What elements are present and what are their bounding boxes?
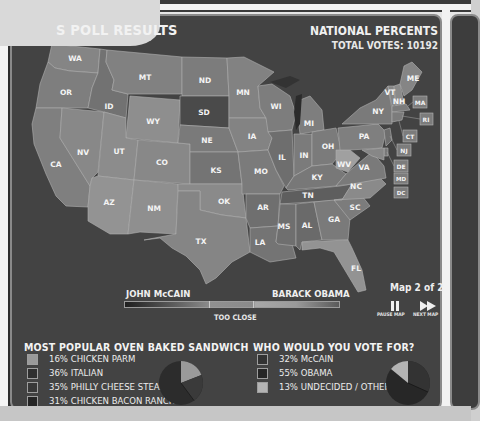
svg-text:IA: IA xyxy=(248,132,257,141)
state-MI[interactable] xyxy=(298,96,324,134)
pause-map-button[interactable] xyxy=(389,297,401,309)
map-counter: Map 2 of 2 xyxy=(390,282,443,293)
legend-swatch xyxy=(27,368,38,379)
legend-swatch xyxy=(27,354,38,365)
svg-text:WY: WY xyxy=(146,117,160,126)
svg-text:RI: RI xyxy=(423,116,430,123)
svg-text:NE: NE xyxy=(201,136,212,145)
legend-swatch xyxy=(257,368,268,379)
svg-text:DE: DE xyxy=(396,163,405,170)
svg-text:UT: UT xyxy=(113,147,125,156)
svg-text:MA: MA xyxy=(415,99,426,106)
svg-text:WV: WV xyxy=(337,160,351,169)
national-percents-label: NATIONAL PERCENTS xyxy=(310,24,438,38)
fast-forward-icon xyxy=(419,300,437,312)
svg-text:MS: MS xyxy=(278,222,291,231)
legend-mccain-label: JOHN McCAIN xyxy=(126,288,191,299)
state-NJ-shape[interactable] xyxy=(384,128,392,146)
legend-swatch xyxy=(27,382,38,393)
svg-text:OR: OR xyxy=(60,88,72,97)
svg-text:NH: NH xyxy=(393,97,406,106)
svg-text:MI: MI xyxy=(304,119,314,128)
svg-text:LA: LA xyxy=(255,238,266,247)
svg-text:CT: CT xyxy=(406,133,415,140)
next-map-button[interactable] xyxy=(419,297,437,309)
vote-pie-chart xyxy=(385,360,431,406)
svg-text:NM: NM xyxy=(147,204,161,213)
sandwich-pie-chart xyxy=(158,360,204,406)
svg-text:IL: IL xyxy=(278,153,286,162)
svg-text:AL: AL xyxy=(302,221,313,230)
svg-text:PA: PA xyxy=(359,132,370,141)
svg-text:VA: VA xyxy=(358,163,369,172)
svg-text:NV: NV xyxy=(77,148,89,157)
svg-text:MD: MD xyxy=(396,176,406,182)
legend-tick-right xyxy=(253,301,254,308)
svg-text:KY: KY xyxy=(311,173,323,182)
sandwich-poll-title: MOST POPULAR OVEN BAKED SANDWICH xyxy=(24,341,249,353)
svg-text:KS: KS xyxy=(210,166,221,175)
svg-text:ME: ME xyxy=(407,74,420,83)
svg-text:TN: TN xyxy=(302,191,313,200)
next-map-label[interactable]: NEXT MAP xyxy=(413,312,438,317)
legend-swatch xyxy=(257,354,268,365)
legend-too-close-label: TOO CLOSE xyxy=(214,313,257,322)
svg-text:ID: ID xyxy=(104,102,113,111)
svg-text:MO: MO xyxy=(254,167,268,176)
legend-swatch xyxy=(257,382,268,393)
state-CT-shape[interactable] xyxy=(392,112,404,122)
state-DE-shape[interactable] xyxy=(384,148,388,156)
svg-text:GA: GA xyxy=(328,215,340,224)
svg-text:CA: CA xyxy=(50,160,62,169)
svg-text:FL: FL xyxy=(351,264,361,273)
svg-text:IN: IN xyxy=(299,151,308,160)
svg-text:CO: CO xyxy=(156,158,168,167)
svg-text:AZ: AZ xyxy=(103,198,115,207)
page-title-text: S POLL RESULTS xyxy=(56,22,178,38)
svg-text:OK: OK xyxy=(218,197,231,206)
svg-text:OH: OH xyxy=(322,142,335,151)
svg-text:NY: NY xyxy=(372,107,384,116)
bottom-strip xyxy=(0,406,471,421)
svg-text:NJ: NJ xyxy=(400,147,407,155)
svg-text:WA: WA xyxy=(68,54,82,63)
vote-poll-title: WHO WOULD YOU VOTE FOR? xyxy=(253,341,415,353)
pause-map-label[interactable]: PAUSE MAP xyxy=(377,312,405,317)
svg-text:SD: SD xyxy=(198,108,210,117)
total-votes: TOTAL VOTES: 10192 xyxy=(332,40,438,51)
svg-text:NC: NC xyxy=(350,182,362,191)
svg-text:WI: WI xyxy=(270,102,281,111)
legend-obama-label: BARACK OBAMA xyxy=(272,288,350,299)
svg-text:ND: ND xyxy=(199,76,212,85)
state-MT[interactable] xyxy=(106,50,182,94)
svg-text:MN: MN xyxy=(236,88,250,97)
svg-text:DC: DC xyxy=(397,190,406,196)
svg-text:TX: TX xyxy=(196,237,207,246)
svg-text:AR: AR xyxy=(257,203,269,212)
page-title: S POLL RESULTS xyxy=(56,22,178,38)
legend-color-scale xyxy=(124,301,340,308)
svg-text:MT: MT xyxy=(139,73,152,82)
pause-icon xyxy=(389,300,401,312)
legend-tick-left xyxy=(209,301,210,308)
svg-text:SC: SC xyxy=(350,203,361,212)
svg-text:VT: VT xyxy=(385,88,397,97)
